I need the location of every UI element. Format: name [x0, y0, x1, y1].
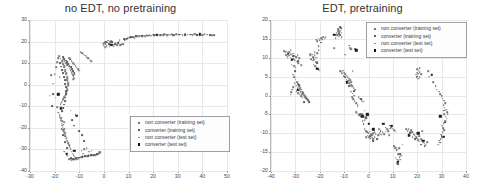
- gridline-vertical: [30, 20, 31, 171]
- data-point: [397, 163, 399, 165]
- data-point: [65, 83, 67, 85]
- data-point: [72, 79, 74, 81]
- tick-mark-y: [269, 77, 271, 78]
- gridline-horizontal: [271, 77, 466, 78]
- data-point: [100, 152, 102, 154]
- data-point: [81, 150, 83, 152]
- data-point: [341, 32, 343, 34]
- data-point: [298, 57, 300, 59]
- data-point: [122, 43, 124, 45]
- data-point: [59, 114, 61, 116]
- data-point: [65, 93, 67, 95]
- legend-item-converter-training: converter (training set): [133, 126, 226, 133]
- legend-label: converter (training set): [145, 128, 195, 133]
- data-point: [399, 159, 401, 161]
- data-point: [365, 136, 367, 138]
- data-point: [110, 44, 112, 46]
- legend-marker-non-converter-training-icon: [133, 122, 145, 124]
- data-point: [93, 154, 95, 156]
- data-point: [362, 101, 364, 103]
- tick-mark-y: [269, 96, 271, 97]
- data-point: [316, 57, 318, 59]
- data-point: [81, 135, 83, 137]
- data-point: [292, 89, 294, 91]
- data-point: [209, 34, 211, 36]
- data-point: [426, 142, 428, 144]
- data-point: [348, 85, 350, 87]
- tick-label-x: 0: [102, 174, 105, 179]
- data-point: [62, 73, 64, 75]
- gridline-horizontal: [30, 85, 227, 86]
- data-point: [78, 70, 80, 72]
- data-point: [439, 115, 441, 117]
- data-point: [340, 26, 342, 28]
- data-point: [436, 89, 438, 91]
- data-point: [319, 70, 321, 72]
- data-point: [429, 76, 431, 78]
- data-point: [417, 78, 419, 80]
- data-point: [63, 124, 65, 126]
- data-point: [88, 151, 90, 153]
- data-point: [65, 86, 67, 88]
- data-point: [364, 110, 366, 112]
- data-point: [400, 155, 402, 157]
- tick-mark-y: [28, 85, 30, 86]
- data-point: [119, 40, 121, 42]
- data-point: [421, 131, 423, 133]
- tick-label-y: 10: [21, 61, 27, 66]
- data-point: [351, 49, 353, 51]
- gridline-vertical: [79, 20, 80, 171]
- data-point: [444, 102, 446, 104]
- legend-marker-non-converter-test-icon: [369, 43, 381, 45]
- data-point: [398, 148, 400, 150]
- data-point: [396, 149, 398, 151]
- data-point: [86, 148, 88, 150]
- data-point: [316, 63, 318, 65]
- data-point: [305, 98, 307, 100]
- tick-mark-y: [28, 63, 30, 64]
- data-point: [399, 153, 401, 155]
- data-point: [443, 123, 445, 125]
- data-point: [442, 132, 444, 134]
- figure-scatter-comparison: no EDT, no pretraining -30-20-1001020304…: [0, 0, 483, 193]
- legend-marker-non-converter-training-icon: [369, 28, 381, 30]
- data-point: [420, 144, 422, 146]
- data-point: [389, 128, 391, 130]
- legend-marker-converter-test-icon: [133, 143, 145, 146]
- tick-label-y: -15: [261, 150, 269, 155]
- tick-label-x: 50: [224, 174, 230, 179]
- data-point: [130, 36, 132, 38]
- data-point: [399, 157, 401, 159]
- data-point: [295, 67, 297, 69]
- data-point: [290, 94, 292, 96]
- data-point: [444, 121, 446, 123]
- data-point: [98, 151, 100, 153]
- data-point: [96, 153, 98, 155]
- legend-label: non converter (test set): [145, 135, 196, 140]
- data-point: [73, 149, 75, 151]
- tick-label-y: 20: [262, 17, 268, 22]
- data-point: [67, 141, 69, 143]
- data-point: [338, 33, 340, 35]
- data-point: [63, 135, 65, 137]
- data-point: [377, 134, 379, 136]
- data-point: [364, 119, 366, 121]
- tick-label-y: 30: [21, 17, 27, 22]
- tick-mark-y: [28, 42, 30, 43]
- data-point: [291, 58, 293, 60]
- data-point: [83, 149, 85, 151]
- data-point: [64, 128, 66, 130]
- data-point: [76, 159, 78, 161]
- data-point: [298, 62, 300, 64]
- data-point: [372, 128, 374, 130]
- data-point: [296, 56, 298, 58]
- data-point: [52, 94, 54, 96]
- tick-mark-y: [269, 133, 271, 134]
- data-point: [141, 35, 143, 37]
- data-point: [351, 81, 353, 83]
- data-point: [59, 62, 61, 64]
- data-point: [360, 98, 362, 100]
- data-point: [190, 34, 192, 36]
- data-point: [318, 49, 320, 51]
- data-point: [441, 95, 443, 97]
